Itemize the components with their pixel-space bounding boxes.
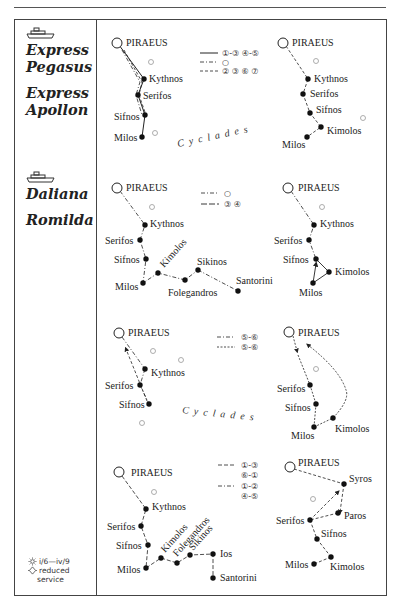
label-piraeus: PIRAEUS (126, 37, 168, 48)
label-sifnos: Sifnos (285, 402, 311, 413)
legend-dashed-days-2: ⑥-① (241, 471, 258, 480)
label-kythnos: Kythnos (320, 218, 354, 229)
label-serifos: Serifos (143, 90, 171, 101)
label-santorini: Santorini (236, 275, 273, 286)
label-serifos: Serifos (310, 88, 338, 99)
route-map-panel-5: PIRAEUS Kythnos Serifos Sifnos Cyclades … (105, 327, 259, 426)
label-milos: Milos (282, 139, 305, 150)
legend-dashed-days: ①-③ (241, 461, 258, 470)
legend-longdash-days: ③ ④ (224, 200, 241, 209)
region-label-cyclades: Cyclades (182, 404, 259, 423)
label-kythnos: Kythnos (152, 501, 186, 512)
legend-dashdot-days: ○ (224, 189, 231, 198)
route-map-panel-1: PIRAEUS Kythnos Serifos Sifnos Milos Cyc… (112, 37, 259, 149)
label-piraeus: PIRAEUS (298, 327, 340, 338)
label-kimolos: Kimolos (335, 423, 370, 434)
label-piraeus: PIRAEUS (126, 182, 168, 193)
label-milos: Milos (291, 430, 314, 441)
route-map-panel-6: PIRAEUS Serifos Sifnos Milos Kimolos (277, 327, 370, 441)
label-milos: Milos (115, 281, 138, 292)
label-milos: Milos (299, 287, 322, 298)
label-milos: Milos (114, 132, 137, 143)
label-sifnos: Sifnos (116, 540, 142, 551)
label-kythnos: Kythnos (151, 367, 185, 378)
label-sifnos: Sifnos (119, 399, 145, 410)
label-sifnos: Sifnos (316, 104, 342, 115)
label-kythnos: Kythnos (150, 218, 184, 229)
label-kimolos: Kimolos (335, 266, 370, 277)
legend-solid-days: ①-③ ④-⑤ (222, 49, 259, 58)
label-kimolos: Kimolos (330, 561, 365, 572)
label-serifos: Serifos (277, 383, 305, 394)
label-piraeus: PIRAEUS (292, 37, 334, 48)
label-sifnos: Sifnos (114, 254, 140, 265)
label-milos: Milos (285, 559, 308, 570)
label-serifos: Serifos (107, 521, 135, 532)
label-paros: Paros (344, 510, 366, 521)
label-piraeus: PIRAEUS (131, 467, 173, 478)
route-maps: PIRAEUS Kythnos Serifos Sifnos Milos Cyc… (0, 0, 399, 613)
legend-dotted-days: ⑤-⑥ (241, 343, 258, 352)
label-kythnos: Kythnos (314, 73, 348, 84)
label-sifnos: Sifnos (321, 528, 347, 539)
route-map-panel-3: PIRAEUS Kythnos Serifos Sifnos Kimolos S… (105, 182, 273, 298)
label-sifnos: Sifnos (283, 254, 309, 265)
label-serifos: Serifos (274, 235, 302, 246)
label-sifnos: Sifnos (114, 111, 140, 122)
route-map-panel-4: PIRAEUS Kythnos Serifos Sifnos Kimolos M… (274, 182, 370, 298)
label-syros: Syros (349, 473, 372, 484)
label-milos: Milos (117, 564, 140, 575)
label-santorini: Santorini (220, 572, 257, 583)
label-piraeus: PIRAEUS (128, 327, 170, 338)
legend-dashdot-days: ①-② (241, 482, 258, 491)
label-serifos: Serifos (276, 515, 304, 526)
legend-dashdot-days: ⑤-⑥ (241, 333, 258, 342)
label-kimolos: Kimolos (157, 236, 188, 269)
legend-dashed-days: ② ③ ⑥ ⑦ (222, 67, 258, 76)
route-map-panel-8: PIRAEUS Syros Paros Serifos Sifnos Milos… (276, 457, 372, 572)
legend-dashdot-days-2: ④-⑤ (241, 492, 258, 501)
route-map-panel-2: PIRAEUS Kythnos Serifos Sifnos Kimolos M… (278, 37, 366, 150)
label-serifos: Serifos (105, 380, 133, 391)
port-piraeus-icon (112, 38, 122, 48)
label-serifos: Serifos (105, 235, 133, 246)
label-kimolos: Kimolos (327, 125, 362, 136)
region-label-cyclades: Cyclades (176, 122, 253, 149)
label-sikinos: Sikinos (197, 256, 227, 267)
label-kythnos: Kythnos (149, 73, 183, 84)
label-piraeus: PIRAEUS (298, 457, 340, 468)
label-folegandros: Folegandros (168, 287, 218, 298)
label-ios: Ios (220, 548, 232, 559)
label-piraeus: PIRAEUS (298, 182, 340, 193)
route-map-panel-7: PIRAEUS Kythnos Serifos Sifnos Kimolos F… (107, 461, 258, 583)
legend-dashdot-days: ○ (222, 58, 229, 67)
